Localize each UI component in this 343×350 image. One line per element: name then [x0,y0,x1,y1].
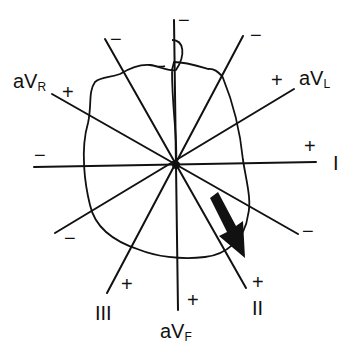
lead-avf-label: aVF [160,320,192,344]
hexaxial-diagram: − − − + + − + − − + + + aVR aVL I III II… [0,0,343,350]
lead-avl-label: aVL [299,67,330,91]
i-positive-sign: + [304,135,316,157]
ii-negative-sign: − [110,28,122,50]
avl-positive-sign: + [271,69,283,91]
i-negative-sign: − [34,144,46,166]
lead-i-label: I [333,152,339,174]
avf-negative-sign: − [178,9,190,31]
lead-avr-label: aVR [13,70,46,94]
ii-positive-sign: + [252,271,264,293]
lead-ii-label: II [252,297,263,319]
avr-positive-sign: + [62,81,74,103]
iii-positive-sign: + [121,273,133,295]
lead-iii-label: III [95,302,112,324]
avr-negative-sign: − [302,220,314,242]
avf-positive-sign: + [187,289,199,311]
iii-negative-sign: − [250,24,262,46]
avl-negative-sign: − [64,227,76,249]
